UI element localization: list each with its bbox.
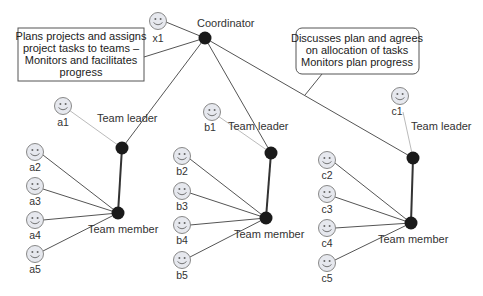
person-label-c1: c1 xyxy=(391,105,402,117)
team-member-node xyxy=(260,212,273,225)
team-leader-label: Team leader xyxy=(97,112,158,124)
person-label-b3: b3 xyxy=(176,200,188,212)
person-label-c5: c5 xyxy=(321,272,332,284)
person-label-a5: a5 xyxy=(29,263,41,275)
team-member-label: Team member xyxy=(234,228,305,240)
person-label-a2: a2 xyxy=(29,161,41,173)
team-leader-note-line-1: Discusses plan and agrees xyxy=(291,32,424,44)
coordinator-note-line-2: project tasks to teams – xyxy=(23,42,140,54)
coordinator-note: Plans projects and assigns project tasks… xyxy=(16,28,147,81)
person-label-x1: x1 xyxy=(152,32,163,44)
coordinator-person: x1 xyxy=(150,13,167,45)
person-label-b5: b5 xyxy=(176,269,188,281)
person-label-b1: b1 xyxy=(204,121,216,133)
team-leader-node xyxy=(265,147,278,160)
team-member-label: Team member xyxy=(88,223,159,235)
person-label-a4: a4 xyxy=(29,229,41,241)
team-leader-node xyxy=(407,152,420,165)
team-leader-label: Team leader xyxy=(411,120,472,132)
person-label-a3: a3 xyxy=(29,195,41,207)
coordinator-label: Coordinator xyxy=(197,17,255,29)
person-label-a1: a1 xyxy=(57,116,69,128)
team-leader-note: Discusses plan and agrees on allocation … xyxy=(291,28,424,74)
person-label-b4: b4 xyxy=(176,234,188,246)
team-member-label: Team member xyxy=(378,233,449,245)
person-label-c2: c2 xyxy=(321,169,332,181)
team-a: a1 a2 a3 a4 a5 Team leader Team member xyxy=(27,98,159,276)
team-leader-note-line-3: Monitors plan progress xyxy=(301,56,413,68)
team-leader-note-line-2: on allocation of tasks xyxy=(306,44,409,56)
coordinator-node xyxy=(199,32,212,45)
person-label-c3: c3 xyxy=(321,203,332,215)
coordinator-note-line-4: progress xyxy=(60,66,103,78)
team-member-node xyxy=(112,207,125,220)
team-leader-label: Team leader xyxy=(228,120,289,132)
smiley-face-icon xyxy=(55,98,72,115)
person-label-b2: b2 xyxy=(176,165,188,177)
person-label-c4: c4 xyxy=(321,237,332,249)
team-leader-node xyxy=(116,142,129,155)
coordinator-note-line-3: Monitors and facilitates xyxy=(25,54,138,66)
team-b: b1 b2 b3 b4 b5 Team leader Team member xyxy=(174,104,305,282)
team-hierarchy-diagram: Plans projects and assigns project tasks… xyxy=(0,0,483,296)
coordinator-note-line-1: Plans projects and assigns xyxy=(16,30,147,42)
team-member-node xyxy=(405,217,418,230)
smiley-face-icon xyxy=(150,13,167,30)
